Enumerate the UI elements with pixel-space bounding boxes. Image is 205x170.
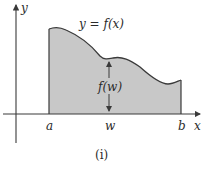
tick-label-b: b <box>178 119 186 133</box>
tick-label-w: w <box>105 119 116 133</box>
shaded-area <box>49 28 181 114</box>
curve-label: y = f(x) <box>78 17 124 31</box>
x-axis-label: x <box>194 119 201 133</box>
diagram-canvas: y x y = f(x) f(w) a w b (i) <box>0 0 205 170</box>
tick-label-a: a <box>46 119 53 133</box>
figure-caption: (i) <box>95 148 108 162</box>
fw-label: f(w) <box>97 80 122 94</box>
y-axis-label: y <box>20 1 28 15</box>
